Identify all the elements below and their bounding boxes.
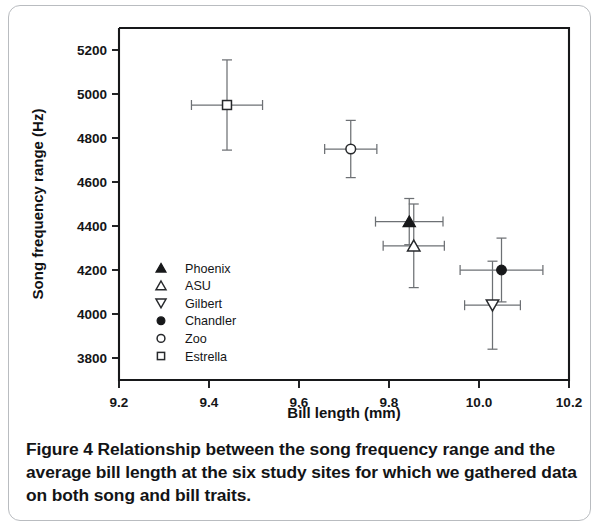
figure-card: 38004000420044004600480050005200 9.29.49… — [8, 5, 591, 521]
data-point-chandler — [497, 265, 507, 275]
data-point-estrella — [223, 101, 232, 110]
legend-marker-phoenix — [156, 263, 166, 272]
legend-label-asu: ASU — [185, 279, 211, 293]
legend-label-gilbert: Gilbert — [185, 297, 223, 311]
y-axis-ticks: 38004000420044004600480050005200 — [77, 43, 119, 366]
plot-svg: 38004000420044004600480050005200 9.29.49… — [9, 6, 592, 426]
legend-marker-gilbert — [156, 299, 166, 308]
figure-caption: Figure 4 Relationship between the song f… — [26, 438, 582, 507]
x-axis-title: Bill length (mm) — [287, 404, 400, 421]
plot-legend: PhoenixASUGilbertChandlerZooEstrella — [156, 262, 236, 364]
scatter-plot: 38004000420044004600480050005200 9.29.49… — [9, 6, 592, 426]
y-tick-label: 3800 — [77, 351, 107, 366]
legend-marker-zoo — [157, 335, 165, 343]
legend-marker-chandler — [157, 317, 165, 325]
data-point-zoo — [346, 144, 356, 154]
legend-label-zoo: Zoo — [185, 332, 207, 346]
caption-label: Figure 4 — [26, 439, 93, 459]
y-tick-label: 4200 — [77, 263, 107, 278]
legend-label-phoenix: Phoenix — [185, 262, 231, 276]
x-tick-label: 9.4 — [200, 395, 219, 410]
y-tick-label: 4800 — [77, 131, 107, 146]
legend-label-chandler: Chandler — [185, 314, 236, 328]
x-tick-label: 10.0 — [466, 395, 492, 410]
y-tick-label: 4000 — [77, 307, 107, 322]
y-tick-label: 5000 — [77, 87, 107, 102]
y-tick-label: 5200 — [77, 43, 107, 58]
caption-text: Relationship between the song frequency … — [26, 439, 577, 505]
y-tick-label: 4400 — [77, 219, 107, 234]
y-axis-title: Song frequency range (Hz) — [29, 109, 46, 300]
data-points — [223, 101, 507, 311]
legend-marker-estrella — [157, 352, 164, 359]
y-tick-label: 4600 — [77, 175, 107, 190]
legend-marker-asu — [156, 281, 166, 290]
x-tick-label: 10.2 — [556, 395, 582, 410]
x-tick-label: 9.2 — [110, 395, 129, 410]
legend-label-estrella: Estrella — [185, 350, 227, 364]
